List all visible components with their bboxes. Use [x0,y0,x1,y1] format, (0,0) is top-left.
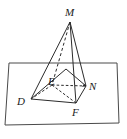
vertex-label-E: E [48,76,55,87]
edge-N-F [76,86,86,103]
edge-T-N [66,69,86,86]
vertex-label-F: F [72,107,79,118]
vertex-label-D: D [17,96,25,107]
edge-E-N-dashed [52,85,86,86]
geometry-canvas [0,0,127,139]
vertex-label-M: M [65,7,74,18]
vertex-label-N: N [89,81,96,92]
edge-E-F-dashed [52,85,76,103]
edge-M-D [31,22,70,99]
edge-F-D [31,99,76,103]
geometry-figure: M E N D F [0,0,127,139]
